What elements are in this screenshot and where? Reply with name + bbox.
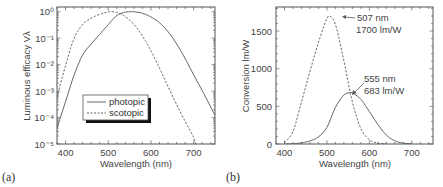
y-tick-label: 10⁻⁴ [34, 112, 54, 123]
x-tick-label: 400 [58, 147, 74, 158]
chart-b-xlabel: Wavelength (nm) [319, 158, 391, 169]
annotation-arrow-555 [354, 83, 364, 93]
series-photopic-line [284, 92, 411, 144]
annotation-arrowhead-507 [342, 15, 346, 19]
y-tick-label: 10⁻⁵ [34, 139, 54, 150]
y-tick-label: 10⁰ [39, 6, 54, 17]
x-tick-label: 500 [100, 147, 116, 158]
annotation-507-line2: 1700 lm/W [356, 24, 401, 35]
chart-a-legend: photopic scotopic [83, 95, 151, 123]
chart-a: 40050060070010⁰10⁻¹10⁻²10⁻³10⁻⁴10⁻⁵ phot… [2, 6, 215, 184]
x-tick-label: 600 [361, 147, 377, 158]
x-tick-label: 400 [277, 147, 293, 158]
chart-b-ylabel: Conversion lm/W [240, 40, 251, 112]
chart-b-frame [276, 7, 433, 144]
x-tick-label: 700 [186, 147, 202, 158]
annotation-507-line1: 507 nm [357, 12, 389, 23]
y-tick-label: 500 [256, 101, 272, 112]
y-tick-label: 10⁻² [35, 59, 54, 70]
panel-label-a: (a) [2, 170, 15, 184]
y-tick-label: 10⁻¹ [35, 33, 54, 44]
series-scotopic-line [57, 12, 196, 144]
chart-b-annotations: 507 nm 1700 lm/W 555 nm 683 lm/W [342, 12, 404, 96]
y-tick-label: 10⁻³ [35, 86, 54, 97]
annotation-555-line1: 555 nm [364, 73, 396, 84]
chart-a-curves [57, 12, 215, 144]
chart-a-xlabel: Wavelength (nm) [100, 158, 172, 169]
chart-b: 400500600700050010001500 507 nm 1700 lm/… [226, 7, 433, 184]
x-tick-label: 700 [404, 147, 420, 158]
x-tick-label: 500 [319, 147, 335, 158]
legend-scotopic-label: scotopic [109, 107, 144, 118]
panel-label-b: (b) [226, 170, 240, 184]
y-tick-label: 0 [267, 139, 272, 150]
y-tick-label: 1000 [251, 63, 272, 74]
x-tick-label: 600 [143, 147, 159, 158]
chart-a-ylabel: Luminous efficacy Vλ [21, 31, 32, 121]
annotation-555-line2: 683 lm/W [364, 85, 404, 96]
chart-b-ticks: 400500600700050010001500 [251, 7, 433, 158]
figure: 40050060070010⁰10⁻¹10⁻²10⁻³10⁻⁴10⁻⁵ phot… [0, 0, 443, 187]
legend-photopic-label: photopic [109, 96, 145, 107]
y-tick-label: 1500 [251, 26, 272, 37]
